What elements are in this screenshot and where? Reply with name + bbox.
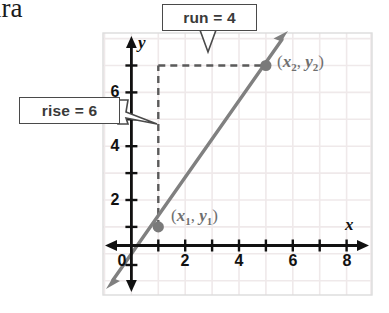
coordinate-plane-figure [0,0,389,313]
p2-y: y [305,52,313,71]
p1-y: y [199,206,207,225]
p1-comma: , [191,206,200,225]
point-x1-y1 [153,221,164,232]
point-x2-y2 [260,60,271,71]
tick-label-y-4: 4 [106,137,124,155]
p2-comma: , [297,52,306,71]
y-axis-label: y [138,33,146,53]
tick-label-origin: 0 [113,252,131,270]
tick-label-x-4: 4 [230,252,248,270]
callout-run: run = 4 [162,4,257,31]
p1-x: x [177,206,186,225]
x-axis-label: x [345,215,354,235]
p1-close: ) [212,206,218,225]
p2-x: x [283,52,292,71]
point-label-x1-y1: (x1, y1) [171,206,218,227]
figure-stage: ıra [0,0,389,313]
p2-close: ) [318,52,324,71]
callout-rise: rise = 6 [19,97,120,124]
tick-label-y-6: 6 [106,83,124,101]
point-label-x2-y2: (x2, y2) [277,52,324,73]
tick-label-x-2: 2 [176,252,194,270]
tick-label-x-6: 6 [284,252,302,270]
tick-label-x-8: 8 [338,252,356,270]
tick-label-y-2: 2 [106,191,124,209]
